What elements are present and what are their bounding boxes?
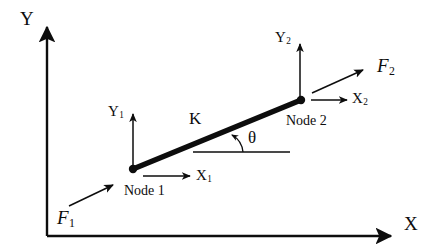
global-y-axis-label: Y bbox=[20, 9, 34, 28]
dof-y2-label: Y2 bbox=[275, 30, 291, 45]
dof-x2-label-sub: 2 bbox=[363, 97, 368, 107]
element-member bbox=[133, 100, 301, 169]
force-f1-label: F1 bbox=[57, 208, 75, 227]
dof-x2-label: X2 bbox=[352, 91, 368, 106]
element-stiffness-label: K bbox=[189, 110, 201, 127]
force-f1-label-sub: 1 bbox=[69, 217, 75, 230]
global-x-axis-label: X bbox=[404, 214, 418, 233]
angle-arc bbox=[232, 135, 243, 152]
diagram-canvas: Y X F1 F2 X1 Y1 X2 Y2 Node 1 Node 2 K θ bbox=[0, 0, 440, 250]
dof-x1-label-main: X bbox=[196, 167, 207, 183]
dof-y2-label-main: Y bbox=[275, 29, 286, 45]
node-2-caption: Node 2 bbox=[286, 114, 327, 128]
element-angle-label: θ bbox=[248, 129, 256, 146]
force-f1-label-main: F bbox=[57, 207, 69, 228]
dof-y2-label-sub: 2 bbox=[286, 36, 291, 46]
dof-x1-label-sub: 1 bbox=[207, 174, 212, 184]
node-2-marker bbox=[297, 96, 305, 104]
node-1-caption: Node 1 bbox=[124, 184, 165, 198]
dof-x1-label: X1 bbox=[196, 168, 212, 183]
force-f2-label: F2 bbox=[377, 56, 395, 75]
dof-y1-label-main: Y bbox=[108, 103, 119, 119]
dof-x2-label-main: X bbox=[352, 90, 363, 106]
dof-y1-label: Y1 bbox=[108, 104, 124, 119]
force-f2-label-main: F bbox=[377, 55, 389, 76]
force-f1-arrow bbox=[69, 185, 113, 206]
force-f2-label-sub: 2 bbox=[389, 65, 395, 78]
dof-y1-label-sub: 1 bbox=[119, 110, 124, 120]
